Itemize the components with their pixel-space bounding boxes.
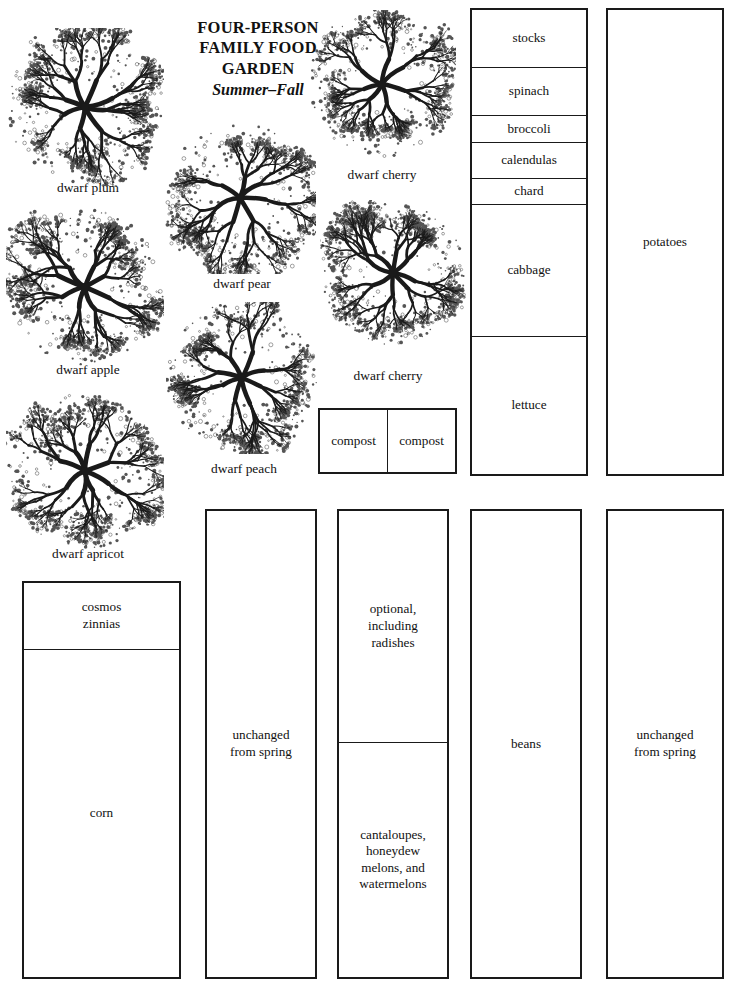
bed-cell-label: broccoli bbox=[504, 121, 553, 138]
tree-label: dwarf plum bbox=[14, 180, 162, 196]
corn-bed: cosmos zinniascorn bbox=[22, 581, 181, 979]
bed-cell: compost bbox=[388, 410, 455, 472]
bed-cell: lettuce bbox=[472, 337, 586, 474]
bed-cell-label: unchanged from spring bbox=[631, 727, 699, 760]
bed-cell: cantaloupes, honeydew melons, and waterm… bbox=[339, 743, 447, 977]
bed-cell-label: compost bbox=[328, 433, 379, 450]
bed-cell-label: beans bbox=[508, 736, 544, 753]
bed-cell: beans bbox=[472, 511, 580, 977]
bed-cell-label: spinach bbox=[506, 83, 552, 100]
bed-cell: cosmos zinnias bbox=[24, 583, 179, 650]
melon-bed: optional, including radishescantaloupes,… bbox=[337, 509, 449, 979]
potatoes-bed: potatoes bbox=[606, 8, 724, 476]
bed-cell-label: unchanged from spring bbox=[227, 727, 295, 760]
bed-cell: cabbage bbox=[472, 205, 586, 337]
tree-icon bbox=[308, 10, 456, 158]
tree-label: dwarf pear bbox=[168, 276, 316, 292]
tree-label: dwarf apple bbox=[14, 362, 162, 378]
tree-icon bbox=[6, 392, 164, 550]
bed-cell: compost bbox=[320, 410, 388, 472]
bed-cell: potatoes bbox=[608, 10, 722, 474]
bed-cell: unchanged from spring bbox=[608, 511, 722, 977]
bed-cell-label: chard bbox=[511, 183, 546, 200]
compost-bins: compostcompost bbox=[318, 408, 457, 474]
bed-cell-label: cantaloupes, honeydew melons, and waterm… bbox=[356, 827, 429, 894]
bed-cell: spinach bbox=[472, 68, 586, 116]
tree-icon bbox=[320, 200, 466, 346]
bed-cell-label: potatoes bbox=[640, 234, 690, 251]
tree-label: dwarf peach bbox=[170, 461, 318, 477]
bed-cell-label: cabbage bbox=[504, 262, 553, 279]
bed-cell-label: lettuce bbox=[508, 397, 549, 414]
bed-cell: chard bbox=[472, 179, 586, 204]
bed-cell: broccoli bbox=[472, 116, 586, 143]
tree-icon bbox=[166, 302, 318, 454]
tree-label: dwarf apricot bbox=[14, 546, 162, 562]
bed-cell-label: stocks bbox=[510, 30, 549, 47]
tree-label: dwarf cherry bbox=[308, 167, 456, 183]
bed-cell: corn bbox=[24, 650, 179, 978]
unchanged-bed-west: unchanged from spring bbox=[205, 509, 317, 979]
beans-bed: beans bbox=[470, 509, 582, 979]
bed-cell: unchanged from spring bbox=[207, 511, 315, 977]
north-vegetable-bed: stocksspinachbroccolicalendulaschardcabb… bbox=[470, 8, 588, 476]
bed-cell-label: corn bbox=[87, 805, 116, 822]
garden-plan-diagram: FOUR-PERSON FAMILY FOOD GARDEN Summer–Fa… bbox=[0, 0, 735, 986]
bed-cell-label: optional, including radishes bbox=[365, 601, 421, 651]
tree-label: dwarf cherry bbox=[314, 368, 462, 384]
bed-cell-label: calendulas bbox=[498, 152, 560, 169]
unchanged-bed-east: unchanged from spring bbox=[606, 509, 724, 979]
tree-icon bbox=[6, 28, 164, 186]
bed-cell: calendulas bbox=[472, 143, 586, 179]
bed-cell-label: cosmos zinnias bbox=[79, 599, 125, 632]
tree-icon bbox=[6, 208, 164, 366]
tree-icon bbox=[164, 122, 316, 274]
bed-cell: optional, including radishes bbox=[339, 511, 447, 743]
bed-cell: stocks bbox=[472, 10, 586, 68]
bed-cell-label: compost bbox=[396, 433, 447, 450]
